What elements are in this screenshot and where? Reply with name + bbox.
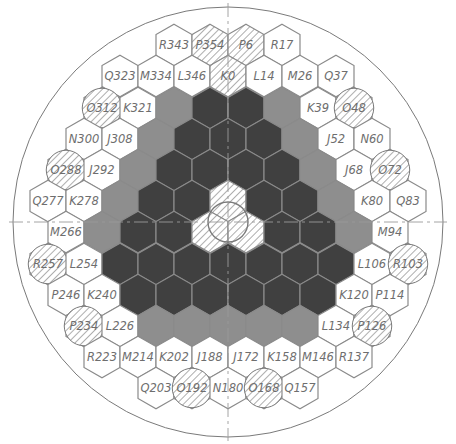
cell-label: M146 <box>302 350 334 364</box>
cell-label: L106 <box>358 257 386 271</box>
cell-label: K80 <box>361 194 383 208</box>
cell-label: M94 <box>378 225 403 239</box>
cell-label: R103 <box>393 257 423 271</box>
cell-label: Q203 <box>140 381 171 395</box>
cell-label: K240 <box>87 288 117 302</box>
cell-label: P246 <box>52 288 81 302</box>
cell-label: R343 <box>159 38 189 52</box>
cell-label: L134 <box>322 319 350 333</box>
cell-label: R257 <box>33 257 64 271</box>
cell-label: P234 <box>70 319 99 333</box>
cell-label: R223 <box>87 350 117 364</box>
cell-label: Q83 <box>396 194 420 208</box>
core-map-diagram: R343P354P6R17Q323M334L346K0L14M26Q37O312… <box>0 0 456 444</box>
cell-label: P114 <box>376 288 405 302</box>
cell-label: N60 <box>360 132 383 146</box>
cell-label: J68 <box>343 163 363 177</box>
cell-label: O288 <box>50 163 81 177</box>
cell-label: M266 <box>50 225 82 239</box>
cell-label: O192 <box>176 381 207 395</box>
cell-label: R17 <box>271 38 294 52</box>
cell-label: P6 <box>239 38 253 52</box>
cell-label: Q323 <box>104 69 135 83</box>
assembly-cell-o192: O192 <box>172 367 211 409</box>
cell-label: J292 <box>87 163 114 177</box>
cell-label: L226 <box>106 319 134 333</box>
cell-label: N300 <box>69 132 100 146</box>
cell-label: P354 <box>196 38 225 52</box>
cell-label: O168 <box>248 381 279 395</box>
cell-label: J308 <box>105 132 132 146</box>
cell-label: K39 <box>307 101 329 115</box>
cell-label: K202 <box>159 350 189 364</box>
cell-label: J172 <box>231 350 258 364</box>
cell-label: M214 <box>122 350 154 364</box>
cell-label: J52 <box>325 132 345 146</box>
cell-label: K158 <box>267 350 297 364</box>
cell-label: P126 <box>358 319 387 333</box>
cell-label: J188 <box>195 350 222 364</box>
cell-label: L254 <box>70 257 98 271</box>
cell-label: L346 <box>178 69 206 83</box>
cell-label: R137 <box>339 350 370 364</box>
cell-label: O72 <box>378 163 402 177</box>
cell-label: O312 <box>86 101 117 115</box>
cell-label: Q277 <box>32 194 64 208</box>
cell-label: K321 <box>123 101 153 115</box>
cell-label: M334 <box>140 69 172 83</box>
cell-label: O48 <box>342 101 366 115</box>
cell-label: K278 <box>69 194 99 208</box>
cell-label: Q37 <box>324 69 348 83</box>
cell-label: L14 <box>253 69 274 83</box>
cell-label: Q157 <box>284 381 316 395</box>
cell-label: M26 <box>288 69 313 83</box>
assembly-cell-o168: O168 <box>244 367 283 409</box>
cell-label: K120 <box>339 288 369 302</box>
